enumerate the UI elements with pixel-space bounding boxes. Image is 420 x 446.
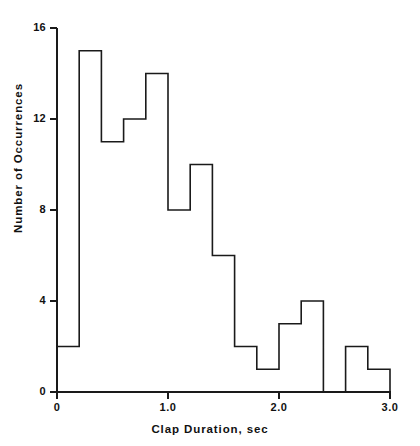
- y-tick-mark: [50, 300, 57, 302]
- y-tick-mark: [50, 209, 57, 211]
- x-tick-label: 3.0: [365, 401, 415, 413]
- histogram-step-outline: [57, 51, 390, 392]
- x-tick-mark: [56, 392, 58, 399]
- y-tick-label: 0: [0, 385, 46, 397]
- x-tick-mark: [278, 392, 280, 399]
- x-axis-line: [56, 391, 391, 393]
- histogram-figure: 1612840 01.02.03.0 Number of Occurrences…: [0, 0, 420, 446]
- x-tick-label: 1.0: [143, 401, 193, 413]
- x-tick-label: 0: [32, 401, 82, 413]
- x-axis-label: Clap Duration, sec: [0, 423, 420, 435]
- y-tick-mark: [50, 118, 57, 120]
- y-tick-label: 4: [0, 294, 46, 306]
- y-axis-label: Number of Occurrences: [12, 48, 24, 268]
- histogram-plot-area: [0, 0, 420, 446]
- x-tick-mark: [389, 392, 391, 399]
- x-tick-mark: [167, 392, 169, 399]
- x-tick-label: 2.0: [254, 401, 304, 413]
- y-tick-mark: [50, 27, 57, 29]
- y-tick-label: 16: [0, 21, 46, 33]
